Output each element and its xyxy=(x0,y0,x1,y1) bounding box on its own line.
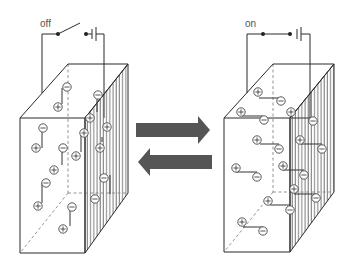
plus-charge xyxy=(32,144,40,152)
left-switch-contact xyxy=(56,32,60,36)
left-cell: off xyxy=(20,18,128,253)
minus-charge xyxy=(259,227,267,235)
plus-charge xyxy=(296,136,304,144)
minus-charge xyxy=(300,171,308,179)
right-switch-contact xyxy=(261,32,265,36)
plus-charge xyxy=(34,202,42,210)
plus-charge xyxy=(254,88,262,96)
minus-charge xyxy=(100,174,108,182)
minus-charge xyxy=(91,195,99,203)
plus-charge xyxy=(54,103,62,111)
minus-charge xyxy=(318,145,326,153)
right-cell: on xyxy=(224,18,334,252)
minus-charge xyxy=(277,97,285,105)
minus-charge xyxy=(63,83,71,91)
plus-charge xyxy=(238,218,246,226)
arrow-right-icon xyxy=(136,116,210,144)
plus-charge xyxy=(80,129,88,137)
minus-charge xyxy=(312,194,320,202)
left-battery-contact xyxy=(84,32,88,36)
plus-charge xyxy=(264,197,272,205)
minus-charge xyxy=(39,124,47,132)
right-switch-label: on xyxy=(245,18,256,29)
minus-charge xyxy=(253,173,261,181)
right-cell-side-face xyxy=(290,64,334,252)
plus-charge xyxy=(232,164,240,172)
minus-charge xyxy=(260,116,268,124)
arrow-left-icon xyxy=(138,148,212,176)
diagram-canvas: off xyxy=(0,0,354,269)
plus-charge xyxy=(290,185,298,193)
plus-charge xyxy=(287,108,295,116)
right-battery-contact xyxy=(288,32,292,36)
minus-charge xyxy=(94,91,102,99)
left-cell-front-face xyxy=(20,118,85,253)
plus-charge xyxy=(103,123,111,131)
left-circuit xyxy=(42,23,104,118)
minus-charge xyxy=(68,203,76,211)
plus-charge xyxy=(237,108,245,116)
left-cell-side-face xyxy=(85,64,128,253)
minus-charge xyxy=(309,117,317,125)
minus-charge xyxy=(275,145,283,153)
plus-charge xyxy=(96,144,104,152)
plus-charge xyxy=(72,152,80,160)
plus-charge xyxy=(86,114,94,122)
plus-charge xyxy=(279,162,287,170)
left-switch-label: off xyxy=(40,18,51,29)
minus-charge xyxy=(59,144,67,152)
plus-charge xyxy=(50,166,58,174)
minus-charge xyxy=(286,206,294,214)
plus-charge xyxy=(59,225,67,233)
plus-charge xyxy=(253,136,261,144)
minus-charge xyxy=(42,179,50,187)
